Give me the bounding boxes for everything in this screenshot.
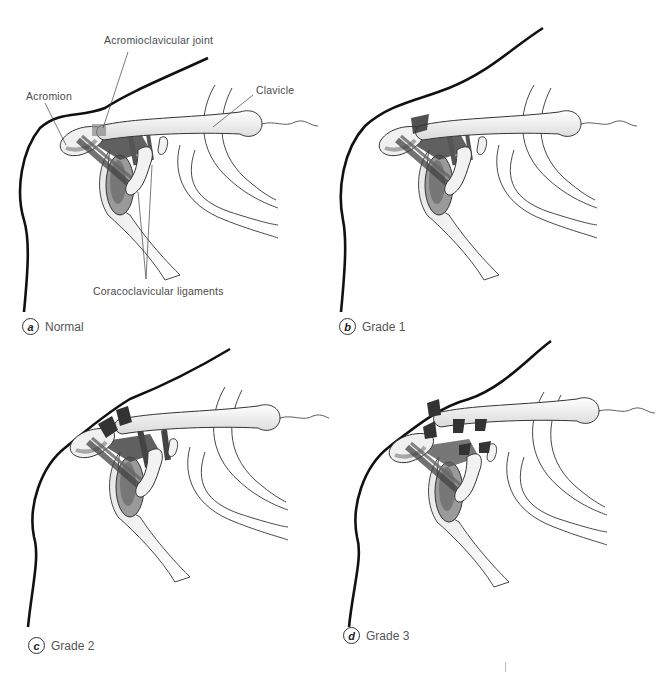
shoulder-illustration-grade-3 [329,337,658,674]
panel-letter-badge: c [28,637,45,654]
panel-grade-2: c Grade 2 [0,337,329,674]
label-acromion: Acromion [26,90,72,102]
panel-caption: Grade 2 [51,639,94,653]
caption-a: a Normal [22,318,84,335]
panel-letter-badge: a [22,318,39,335]
caption-b: b Grade 1 [339,318,405,335]
caption-c: c Grade 2 [28,637,94,654]
panel-caption: Grade 1 [362,320,405,334]
label-coracoclavicular-ligaments: Coracoclavicular ligaments [93,285,224,297]
torn-ligament-stump [427,399,441,417]
shoulder-illustration-grade-2 [0,337,329,674]
panel-letter-badge: b [339,318,356,335]
panel-letter-badge: d [343,627,360,644]
label-clavicle: Clavicle [256,84,294,96]
crop-mark [505,662,506,672]
panel-caption: Normal [45,320,84,334]
caption-d: d Grade 3 [343,627,409,644]
panel-normal: Acromioclavicular joint Acromion Clavicl… [0,0,329,337]
panel-grade-3: d Grade 3 [329,337,658,674]
panel-caption: Grade 3 [366,629,409,643]
label-acromioclavicular-joint: Acromioclavicular joint [104,34,213,46]
panel-grade-1: b Grade 1 [329,0,658,337]
shoulder-illustration-grade-1 [329,0,658,337]
